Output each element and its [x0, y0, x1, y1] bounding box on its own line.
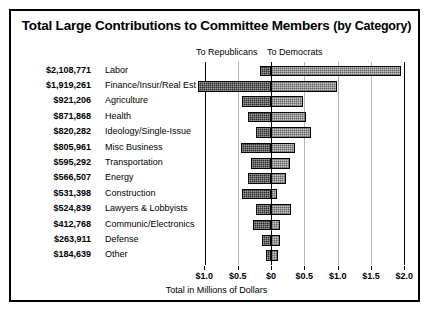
x-axis-tick-label: $2.0 [384, 271, 424, 281]
bar-democrat[interactable] [271, 204, 291, 215]
bar-republican[interactable] [251, 158, 271, 169]
row-amount: $1,919,261 [17, 80, 91, 90]
row-amount: $921,206 [17, 95, 91, 105]
bar-row [196, 110, 405, 125]
bar-republican[interactable] [198, 81, 271, 92]
row-amount: $566,507 [17, 172, 91, 182]
bar-democrat[interactable] [271, 189, 277, 200]
bar-row [196, 218, 405, 233]
plot-area [196, 62, 405, 265]
x-axis-tick [338, 266, 339, 270]
bar-republican[interactable] [248, 173, 271, 184]
bar-republican[interactable] [242, 96, 271, 107]
bar-democrat[interactable] [271, 127, 311, 138]
row-category-label: Ideology/Single-Issue [105, 126, 191, 136]
row-category-label: Finance/Insur/Real Est [105, 80, 196, 90]
bar-democrat[interactable] [271, 158, 290, 169]
bar-republican[interactable] [262, 235, 271, 246]
bar-row [196, 141, 405, 156]
x-axis-tick [304, 266, 305, 270]
x-axis-tick [404, 266, 405, 270]
chart-title: Total Large Contributions to Committee M… [11, 18, 422, 33]
bar-republican[interactable] [241, 143, 271, 154]
bar-row [196, 156, 405, 171]
bar-row [196, 126, 405, 141]
legend-label-democrats: To Democrats [267, 47, 323, 57]
bar-republican[interactable] [260, 66, 271, 77]
x-axis-label: Total in Millions of Dollars [11, 285, 422, 295]
bar-democrat[interactable] [271, 220, 280, 231]
row-category-label: Energy [105, 172, 134, 182]
bar-row [196, 172, 405, 187]
row-category-label: Lawyers & Lobbyists [105, 203, 188, 213]
x-axis-tick [271, 266, 272, 270]
legend-label-republicans: To Republicans [196, 47, 258, 57]
row-category-label: Misc Business [105, 142, 163, 152]
chart-frame: Total Large Contributions to Committee M… [9, 9, 420, 302]
bar-republican[interactable] [248, 112, 271, 123]
row-amount: $2,108,771 [17, 65, 91, 75]
row-amount: $412,768 [17, 219, 91, 229]
row-category-label: Other [105, 249, 128, 259]
bar-democrat[interactable] [271, 81, 337, 92]
bar-row [196, 95, 405, 110]
row-category-label: Communic/Electronics [105, 219, 195, 229]
row-amount: $263,911 [17, 234, 91, 244]
bar-democrat[interactable] [271, 173, 286, 184]
chart-title-main: Total Large Contributions to Committee M… [22, 18, 330, 33]
row-category-label: Labor [105, 65, 128, 75]
x-axis-tick [204, 266, 205, 270]
bar-row [196, 249, 405, 264]
row-category-label: Transportation [105, 157, 163, 167]
row-category-label: Defense [105, 234, 139, 244]
x-axis-tick [238, 266, 239, 270]
bar-democrat[interactable] [271, 250, 278, 261]
bar-democrat[interactable] [271, 112, 306, 123]
row-amount: $184,639 [17, 249, 91, 259]
bar-row [196, 187, 405, 202]
bar-republican[interactable] [266, 250, 271, 261]
bar-democrat[interactable] [271, 235, 280, 246]
row-amount: $524,839 [17, 203, 91, 213]
row-amount: $531,398 [17, 188, 91, 198]
bar-row [196, 203, 405, 218]
row-amount: $805,961 [17, 142, 91, 152]
bar-row [196, 79, 405, 94]
row-amount: $871,868 [17, 111, 91, 121]
bar-democrat[interactable] [271, 66, 401, 77]
x-axis-tick [371, 266, 372, 270]
bar-democrat[interactable] [271, 96, 303, 107]
chart-title-sub: (by Category) [333, 19, 411, 33]
bar-republican[interactable] [256, 204, 271, 215]
bar-republican[interactable] [242, 189, 271, 200]
bar-row [196, 233, 405, 248]
row-amount: $820,282 [17, 126, 91, 136]
bar-democrat[interactable] [271, 143, 295, 154]
bar-republican[interactable] [253, 220, 271, 231]
row-category-label: Agriculture [105, 95, 148, 105]
bar-republican[interactable] [256, 127, 271, 138]
row-amount: $595,292 [17, 157, 91, 167]
row-category-label: Construction [105, 188, 156, 198]
row-category-label: Health [105, 111, 131, 121]
bar-row [196, 64, 405, 79]
